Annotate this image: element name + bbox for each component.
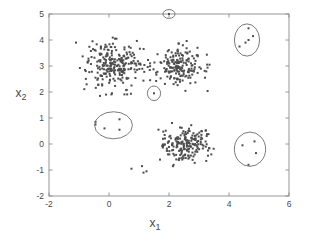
x-axis-ticks: -20246 [45, 14, 291, 209]
cluster-point [147, 59, 149, 61]
cluster-point [108, 82, 110, 84]
cluster-point [179, 138, 181, 140]
x-tick-label: 4 [227, 199, 232, 209]
cluster-point [193, 70, 195, 72]
cluster-point [114, 46, 116, 48]
cluster-point [168, 70, 170, 72]
cluster-point [101, 67, 103, 69]
outlier-bottom-right-point [242, 144, 244, 146]
cluster-point [182, 141, 184, 143]
cluster-point [185, 62, 187, 64]
cluster-point [120, 79, 122, 81]
cluster-point [103, 68, 105, 70]
cluster-point [185, 75, 187, 77]
cluster-point [171, 122, 173, 124]
cluster-point [206, 135, 208, 137]
y-tick-label: 0 [39, 139, 44, 149]
cluster-point [198, 66, 200, 68]
cluster-point [196, 141, 198, 143]
cluster-point [187, 142, 189, 144]
cluster-point [103, 73, 105, 75]
cluster-point [182, 59, 184, 61]
cluster-point [91, 71, 93, 73]
cluster-point [196, 146, 198, 148]
cluster-point [147, 66, 149, 68]
cluster-point [187, 132, 189, 134]
cluster-point [180, 134, 182, 136]
stray-point [111, 92, 113, 94]
y-axis-label: x2 [6, 86, 36, 102]
cluster-point [111, 54, 113, 56]
cluster-point [181, 127, 183, 129]
cluster-point [179, 68, 181, 70]
cluster-point [125, 89, 127, 91]
cluster-point [194, 66, 196, 68]
stray-point [162, 138, 164, 140]
cluster-point [112, 58, 114, 60]
cluster-point [137, 60, 139, 62]
cluster-point [149, 62, 151, 64]
cluster-point [97, 67, 99, 69]
cluster-point [157, 53, 159, 55]
cluster-point [194, 154, 196, 156]
cluster-point [172, 56, 174, 58]
cluster-point [194, 63, 196, 65]
cluster-point [126, 52, 128, 54]
outlier-top-single-point [168, 13, 170, 15]
cluster-point [96, 61, 98, 63]
cluster-point [196, 133, 198, 135]
cluster-point [123, 48, 125, 50]
cluster-point [205, 141, 207, 143]
stray-point [134, 62, 136, 64]
cluster-point [119, 74, 121, 76]
stray-point [116, 38, 118, 40]
cluster-point [123, 93, 125, 95]
cluster-point [184, 90, 186, 92]
x-tick-label: -2 [45, 199, 53, 209]
cluster-point [198, 136, 200, 138]
cluster-point [185, 157, 187, 159]
cluster-point [149, 65, 151, 67]
cluster-point [108, 49, 110, 51]
cluster-point [106, 76, 108, 78]
cluster-point [129, 51, 131, 53]
outlier-bottom-right-point [248, 164, 250, 166]
cluster-point [187, 130, 189, 132]
cluster-point [186, 47, 188, 49]
cluster-point [112, 78, 114, 80]
outlier-top-right-ring [234, 24, 259, 56]
cluster-point [165, 56, 167, 58]
cluster-point [102, 78, 104, 80]
cluster-point [173, 59, 175, 61]
cluster-point [122, 82, 124, 84]
cluster-point [187, 155, 189, 157]
cluster-point [86, 83, 88, 85]
cluster-point [196, 151, 198, 153]
cluster-point [184, 148, 186, 150]
cluster-point [112, 63, 114, 65]
stray-point [92, 40, 94, 42]
cluster-point [208, 147, 210, 149]
cluster-point [96, 43, 98, 45]
cluster-point [149, 79, 151, 81]
cluster-point [198, 148, 200, 150]
y-axis-label-subscript: 2 [21, 92, 26, 102]
cluster-point [156, 71, 158, 73]
cluster-point [105, 59, 107, 61]
y-tick-label: 4 [39, 35, 44, 45]
cluster-point [97, 84, 99, 86]
cluster-point [139, 48, 141, 50]
stray-point [204, 77, 206, 79]
cluster-point [171, 70, 173, 72]
stray-point [146, 170, 148, 172]
cluster-point [130, 68, 132, 70]
cluster-point [133, 60, 135, 62]
cluster-point [120, 59, 122, 61]
cluster-point [99, 59, 101, 61]
cluster-point [91, 56, 93, 58]
cluster-point [172, 142, 174, 144]
cluster-point [119, 72, 121, 74]
cluster-point [190, 145, 192, 147]
cluster-point [163, 60, 165, 62]
cluster-point [100, 47, 102, 49]
